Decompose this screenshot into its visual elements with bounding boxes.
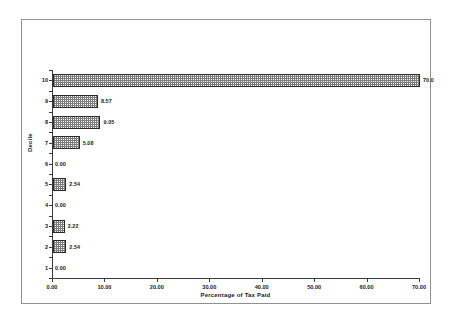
- y-axis-tick: [49, 101, 52, 102]
- y-axis-minor-tick: [49, 132, 52, 133]
- y-axis-tick-label: 7: [45, 140, 48, 146]
- bar-row: 9.05: [53, 112, 114, 132]
- x-axis-tick: [419, 278, 420, 282]
- bar-decile-3: [53, 220, 65, 233]
- x-axis-tick: [157, 278, 158, 282]
- y-axis-tick-label: 2: [45, 244, 48, 250]
- y-axis-minor-tick: [49, 216, 52, 217]
- y-axis-tick-label: 5: [45, 181, 48, 187]
- x-axis-tick-label: 50.00: [307, 284, 321, 290]
- bar-decile-2: [53, 240, 66, 253]
- y-axis-tick-label: 1: [45, 265, 48, 271]
- bar-decile-8: [53, 116, 100, 129]
- bar-value-label: 2.54: [69, 244, 80, 250]
- x-axis-tick-label: 40.00: [255, 284, 269, 290]
- y-axis-tick-label: 8: [45, 119, 48, 125]
- bar-row: 2.54: [53, 237, 80, 257]
- x-axis-tick: [104, 278, 105, 282]
- bar-value-label: 9.05: [103, 119, 114, 125]
- x-axis-tick-label: 30.00: [202, 284, 216, 290]
- y-axis-tick: [49, 143, 52, 144]
- y-axis-tick: [49, 205, 52, 206]
- y-axis-minor-tick: [49, 70, 52, 71]
- y-axis-minor-tick: [49, 91, 52, 92]
- bar-row: 0.00: [53, 154, 66, 174]
- bar-row: 0.00: [53, 258, 66, 278]
- x-axis-tick: [262, 278, 263, 282]
- x-axis-title: Percentage of Tax Paid: [52, 292, 419, 298]
- y-axis-tick-label: 10: [42, 77, 48, 83]
- y-axis-minor-tick: [49, 112, 52, 113]
- y-axis-minor-tick: [49, 174, 52, 175]
- bar-value-label: 2.54: [69, 181, 80, 187]
- bar-decile-9: [53, 95, 98, 108]
- y-axis-tick: [49, 184, 52, 185]
- bar-row: 5.08: [53, 133, 94, 153]
- x-axis-tick-label: 20.00: [150, 284, 164, 290]
- bar-row: 8.57: [53, 91, 112, 111]
- y-axis-tick: [49, 268, 52, 269]
- bar-value-label: 2.22: [68, 223, 79, 229]
- bar-value-label: 0.00: [55, 161, 66, 167]
- y-axis-minor-tick: [49, 236, 52, 237]
- bar-decile-7: [53, 136, 80, 149]
- bar-row: 70.0: [53, 70, 434, 90]
- y-axis-title: Decile: [27, 133, 33, 152]
- x-axis-tick: [209, 278, 210, 282]
- bar-value-label: 0.00: [55, 202, 66, 208]
- plot-area: 70.08.579.055.080.002.540.002.222.540.00…: [52, 70, 419, 278]
- x-axis-line: [52, 278, 420, 279]
- y-axis-tick: [49, 80, 52, 81]
- y-axis-tick-label: 3: [45, 223, 48, 229]
- y-axis-tick: [49, 122, 52, 123]
- x-axis-tick: [52, 278, 53, 282]
- y-axis-tick: [49, 164, 52, 165]
- x-axis-tick-label: 60.00: [360, 284, 374, 290]
- y-axis-tick: [49, 226, 52, 227]
- y-axis-tick-label: 9: [45, 98, 48, 104]
- bar-value-label: 0.00: [55, 265, 66, 271]
- y-axis-minor-tick: [49, 195, 52, 196]
- bar-row: 0.00: [53, 195, 66, 215]
- x-axis-tick-label: 70.00: [412, 284, 426, 290]
- bar-value-label: 70.0: [423, 77, 434, 83]
- bar-decile-10: [53, 74, 420, 87]
- bar-row: 2.54: [53, 174, 80, 194]
- y-axis-tick-label: 4: [45, 202, 48, 208]
- x-axis-tick-label: 0.00: [47, 284, 58, 290]
- bar-value-label: 8.57: [101, 98, 112, 104]
- y-axis-minor-tick: [49, 257, 52, 258]
- chart-figure: 70.08.579.055.080.002.540.002.222.540.00…: [0, 0, 453, 324]
- x-axis-tick: [314, 278, 315, 282]
- y-axis-tick: [49, 247, 52, 248]
- x-axis-tick-label: 10.00: [97, 284, 111, 290]
- y-axis-tick-label: 6: [45, 161, 48, 167]
- y-axis-minor-tick: [49, 153, 52, 154]
- bar-row: 2.22: [53, 216, 79, 236]
- bar-decile-5: [53, 178, 66, 191]
- bar-value-label: 5.08: [83, 140, 94, 146]
- x-axis-tick: [367, 278, 368, 282]
